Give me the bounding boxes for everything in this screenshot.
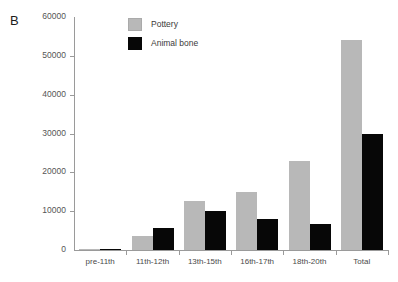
bar-pottery-13th-15th	[184, 201, 205, 250]
bar-animal-bone-pre-11th	[100, 249, 121, 250]
x-axis-label: Total	[336, 258, 388, 266]
bar-animal-bone-13th-15th	[205, 211, 226, 250]
x-axis-tick	[231, 250, 232, 255]
y-axis-label: 60000	[26, 12, 66, 21]
bar-pottery-11th-12th	[132, 236, 153, 250]
y-axis-label-wrap: 10000	[26, 206, 66, 216]
y-axis-label: 0	[26, 245, 66, 254]
pottery-swatch-icon	[128, 18, 142, 31]
y-axis-label-wrap: 60000	[26, 12, 66, 22]
x-axis-tick	[283, 250, 284, 255]
legend-label-animal-bone: Animal bone	[151, 39, 198, 48]
bar-pottery-16th-17th	[236, 192, 257, 250]
legend-item-pottery: Pottery	[128, 16, 198, 33]
x-axis-tick	[336, 250, 337, 255]
chart-legend: Pottery Animal bone	[128, 16, 198, 54]
y-axis-label: 10000	[26, 206, 66, 215]
y-axis-label-wrap: 30000	[26, 129, 66, 139]
x-axis-label: pre-11th	[74, 258, 126, 266]
y-axis-label: 40000	[26, 90, 66, 99]
animal-bone-swatch-icon	[128, 37, 142, 50]
x-axis-label: 18th-20th	[283, 258, 335, 266]
x-axis-tick	[179, 250, 180, 255]
y-axis-label: 20000	[26, 167, 66, 176]
y-axis-label-wrap: 20000	[26, 167, 66, 177]
bar-animal-bone-total	[362, 134, 383, 250]
bar-chart-figure: B 6000050000400003000020000100000 pre-11…	[0, 0, 398, 282]
y-axis-label-wrap: 40000	[26, 90, 66, 100]
legend-item-animal-bone: Animal bone	[128, 35, 198, 52]
x-axis-end-tick	[388, 250, 389, 255]
plot-area	[74, 17, 388, 250]
bar-pottery-total	[341, 40, 362, 250]
y-axis-label: 50000	[26, 51, 66, 60]
x-axis-label: 13th-15th	[179, 258, 231, 266]
bar-animal-bone-11th-12th	[153, 228, 174, 250]
x-axis-label: 11th-12th	[126, 258, 178, 266]
panel-label: B	[10, 13, 19, 28]
y-axis-label-wrap: 50000	[26, 51, 66, 61]
x-axis-label: 16th-17th	[231, 258, 283, 266]
bar-animal-bone-16th-17th	[257, 219, 278, 250]
bar-pottery-pre-11th	[79, 249, 100, 250]
x-axis-tick	[126, 250, 127, 255]
y-axis-label: 30000	[26, 129, 66, 138]
legend-label-pottery: Pottery	[151, 20, 178, 29]
bar-pottery-18th-20th	[289, 161, 310, 250]
y-axis-label-wrap: 0	[26, 245, 66, 255]
bar-animal-bone-18th-20th	[310, 224, 331, 250]
